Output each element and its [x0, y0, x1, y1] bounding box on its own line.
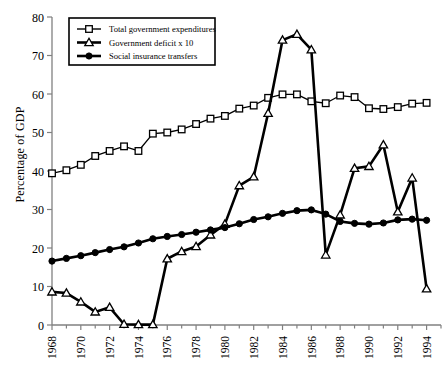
data-point-triangle-20 — [336, 211, 344, 218]
data-point-circle-11 — [207, 227, 213, 233]
data-point-square-24 — [394, 104, 401, 111]
data-point-circle-13 — [236, 221, 242, 227]
data-point-triangle-25 — [408, 174, 416, 181]
x-axis-tick-label: 1974 — [133, 336, 145, 359]
data-point-circle-legend-2 — [86, 53, 92, 59]
data-point-square-19 — [322, 100, 329, 107]
series-0 — [49, 91, 430, 177]
data-point-square-13 — [236, 105, 243, 112]
data-point-circle-19 — [323, 211, 329, 217]
data-point-circle-18 — [308, 207, 314, 213]
data-series-group — [48, 30, 431, 328]
series-1 — [48, 30, 431, 328]
legend-label-2: Social insurance transfers — [109, 51, 198, 61]
data-point-circle-23 — [380, 220, 386, 226]
x-axis-tick-label: 1976 — [161, 336, 173, 359]
data-point-square-4 — [106, 148, 113, 155]
series-2 — [49, 207, 430, 264]
y-axis-tick-label: 0 — [38, 319, 44, 333]
data-point-square-21 — [351, 94, 358, 101]
data-point-circle-1 — [63, 255, 69, 261]
data-point-square-legend-0 — [86, 26, 93, 33]
data-point-square-9 — [178, 126, 185, 133]
data-point-circle-2 — [78, 253, 84, 259]
data-point-square-17 — [294, 91, 301, 98]
x-axis-tick-label: 1982 — [248, 336, 260, 359]
x-axis-tick-label: 1994 — [421, 336, 433, 359]
data-point-square-12 — [222, 113, 229, 120]
data-point-square-22 — [366, 105, 373, 112]
x-axis-tick-label: 1988 — [334, 336, 346, 359]
data-point-square-26 — [423, 100, 430, 107]
data-point-square-2 — [78, 162, 85, 169]
legend-label-0: Total government expenditures — [109, 24, 216, 34]
data-point-square-25 — [409, 100, 416, 107]
data-point-triangle-24 — [394, 208, 402, 215]
data-point-circle-25 — [409, 216, 415, 222]
y-axis-tick-label: 20 — [32, 242, 44, 256]
legend-label-1: Government deficit x 10 — [109, 38, 193, 48]
data-point-circle-16 — [279, 210, 285, 216]
data-point-circle-24 — [395, 217, 401, 223]
series-line-2 — [52, 210, 427, 261]
data-point-circle-22 — [366, 221, 372, 227]
y-axis-label: Percentage of GDP — [13, 80, 28, 230]
data-point-circle-21 — [351, 220, 357, 226]
data-point-circle-10 — [193, 229, 199, 235]
y-axis-tick-label: 50 — [32, 126, 44, 140]
data-point-circle-12 — [222, 224, 228, 230]
data-point-square-20 — [337, 92, 344, 99]
data-point-circle-20 — [337, 218, 343, 224]
data-point-circle-5 — [121, 244, 127, 250]
x-axis-tick-group: 1968197019721974197619781980198219841986… — [46, 325, 441, 359]
data-point-triangle-26 — [422, 285, 430, 292]
data-point-triangle-14 — [250, 173, 258, 180]
data-point-circle-17 — [294, 208, 300, 214]
data-point-triangle-17 — [293, 30, 301, 37]
data-point-square-23 — [380, 106, 387, 113]
data-point-square-7 — [150, 130, 157, 137]
x-axis-tick-label: 1970 — [75, 336, 87, 359]
data-point-circle-4 — [107, 246, 113, 252]
x-axis-tick-label: 1990 — [363, 336, 375, 359]
data-point-triangle-15 — [264, 109, 272, 116]
data-point-square-10 — [193, 121, 200, 128]
y-axis-tick-label: 60 — [32, 88, 44, 102]
x-axis-tick-label: 1980 — [219, 336, 231, 359]
y-axis-tick-label: 40 — [32, 165, 44, 179]
x-axis-tick-label: 1986 — [306, 336, 318, 359]
data-point-square-3 — [92, 153, 99, 160]
data-point-triangle-23 — [379, 141, 387, 148]
y-axis-tick-label: 10 — [32, 280, 44, 294]
data-point-circle-15 — [265, 214, 271, 220]
data-point-square-8 — [164, 129, 171, 136]
data-point-square-1 — [63, 167, 70, 174]
data-point-triangle-19 — [322, 251, 330, 258]
data-point-square-11 — [207, 115, 214, 122]
x-axis-tick-label: 1968 — [46, 336, 58, 359]
y-axis-tick-label: 80 — [32, 11, 44, 25]
x-axis-tick-label: 1978 — [190, 336, 202, 359]
x-axis-tick-label: 1984 — [277, 336, 289, 359]
data-point-circle-26 — [423, 217, 429, 223]
data-point-circle-0 — [49, 258, 55, 264]
y-axis-tick-label: 30 — [32, 203, 44, 217]
data-point-square-0 — [49, 170, 56, 177]
y-axis-tick-label: 70 — [32, 49, 44, 63]
data-point-circle-7 — [150, 236, 156, 242]
series-line-1 — [52, 34, 427, 324]
data-point-square-14 — [250, 102, 257, 109]
data-point-circle-6 — [135, 240, 141, 246]
x-axis-tick-label: 1992 — [392, 336, 404, 359]
data-point-square-5 — [121, 143, 128, 150]
chart-canvas: 01020304050607080 1968197019721974197619… — [0, 0, 444, 374]
data-point-square-16 — [279, 91, 286, 98]
data-point-square-6 — [135, 148, 142, 155]
x-axis-tick-label: 1972 — [104, 336, 116, 359]
data-point-circle-9 — [179, 231, 185, 237]
chart-legend: Total government expendituresGovernment … — [69, 18, 216, 65]
data-point-circle-8 — [164, 233, 170, 239]
chart-figure: Percentage of GDP 01020304050607080 1968… — [0, 0, 444, 374]
data-point-circle-3 — [92, 250, 98, 256]
data-point-triangle-4 — [105, 303, 113, 310]
